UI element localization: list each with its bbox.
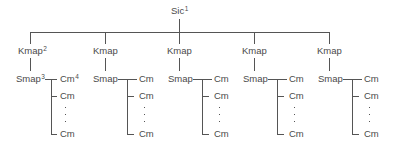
smap-connector	[30, 58, 31, 71]
child-bracket	[352, 79, 353, 135]
kmap-node: Kmap	[317, 46, 342, 56]
smap-connector	[179, 58, 180, 71]
ellipsis-dot	[219, 107, 220, 108]
ellipsis-dot	[369, 107, 370, 108]
root-connector	[179, 19, 180, 32]
cm-node: Cm	[139, 74, 154, 84]
ellipsis-dot	[294, 121, 295, 122]
kmap-node: Kmap	[242, 46, 267, 56]
cm-node: Cm4	[60, 74, 79, 84]
smap-node: Smap3	[16, 74, 45, 84]
child-tick	[127, 134, 134, 135]
kmap-node: Kmap2	[18, 46, 47, 56]
cm-node: Cm	[60, 91, 75, 101]
child-tick	[277, 134, 284, 135]
child-tick	[51, 134, 57, 135]
child-tick	[51, 96, 57, 97]
cm-node: Cm	[214, 129, 229, 139]
child-tick	[127, 96, 134, 97]
cm-node: Cm	[214, 74, 229, 84]
root-footnote: 1	[185, 5, 189, 12]
ellipsis-dot	[144, 107, 145, 108]
smap-connector	[329, 58, 330, 71]
child-tick	[202, 96, 209, 97]
kmap-connector	[30, 32, 31, 44]
cm-node: Cm	[364, 129, 379, 139]
smap-node: Smap	[93, 74, 118, 84]
top-branch-line	[30, 32, 330, 33]
kmap-node: Kmap	[167, 46, 192, 56]
ellipsis-dot	[369, 114, 370, 115]
kmap-connector	[179, 32, 180, 44]
kmap-node: Kmap	[93, 46, 118, 56]
cm-node: Cm	[60, 129, 75, 139]
child-tick	[352, 96, 359, 97]
kmap-connector	[254, 32, 255, 44]
root-label: Sic	[171, 5, 184, 16]
cm-node: Cm	[289, 129, 304, 139]
ellipsis-dot	[65, 107, 66, 108]
child-bracket	[51, 79, 52, 135]
cm-node: Cm	[214, 91, 229, 101]
smap-connector	[254, 58, 255, 71]
child-tick	[277, 96, 284, 97]
child-bracket	[202, 79, 203, 135]
ellipsis-dot	[144, 121, 145, 122]
child-bracket	[127, 79, 128, 135]
cm-node: Cm	[289, 74, 304, 84]
child-tick	[202, 134, 209, 135]
ellipsis-dot	[369, 121, 370, 122]
cm-node: Cm	[364, 74, 379, 84]
root-node-sic: Sic1	[171, 6, 188, 16]
smap-node: Smap	[243, 74, 268, 84]
smap-node: Smap	[318, 74, 343, 84]
child-tick	[352, 134, 359, 135]
ellipsis-dot	[294, 107, 295, 108]
ellipsis-dot	[65, 114, 66, 115]
smap-node: Smap	[168, 74, 193, 84]
kmap-connector	[329, 32, 330, 44]
smap-connector	[105, 58, 106, 71]
ellipsis-dot	[219, 114, 220, 115]
ellipsis-dot	[219, 121, 220, 122]
ellipsis-dot	[65, 121, 66, 122]
ellipsis-dot	[144, 114, 145, 115]
child-bracket	[277, 79, 278, 135]
kmap-connector	[105, 32, 106, 44]
cm-node: Cm	[139, 91, 154, 101]
cm-node: Cm	[364, 91, 379, 101]
cm-node: Cm	[289, 91, 304, 101]
ellipsis-dot	[294, 114, 295, 115]
cm-node: Cm	[139, 129, 154, 139]
